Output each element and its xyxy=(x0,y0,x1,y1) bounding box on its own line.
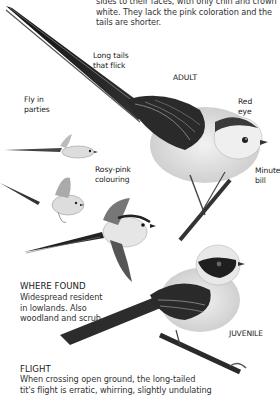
where-found-heading: WHERE FOUND xyxy=(20,281,86,291)
label-minute-bill: Minute bill xyxy=(255,166,280,185)
flying-bird-small-2 xyxy=(0,178,84,223)
label-long-tails: Long tails that flick xyxy=(93,51,129,70)
label-rosy-pink: Rosy-pink colouring xyxy=(95,165,131,184)
label-juvenile: JUVENILE xyxy=(229,329,263,339)
intro-line-3: tails are shorter. xyxy=(96,17,280,28)
adult-bird xyxy=(6,6,268,240)
flying-bird-large xyxy=(24,198,156,282)
where-found-text: Widespread resident in lowlands. Also wo… xyxy=(20,292,130,324)
intro-line-2: white. They lack the pink coloration and… xyxy=(96,7,280,18)
flight-text: When crossing open ground, the long-tail… xyxy=(20,374,280,395)
label-red-eye: Red eye xyxy=(238,97,252,116)
flying-bird-small-1 xyxy=(4,134,98,158)
intro-paragraph: sides to their faces, with only chin and… xyxy=(96,0,280,28)
label-fly-in-parties: Fly in parties xyxy=(24,95,50,114)
flight-heading: FLIGHT xyxy=(20,364,51,374)
label-adult: ADULT xyxy=(173,73,197,83)
intro-line-1: sides to their faces, with only chin and… xyxy=(96,0,280,7)
